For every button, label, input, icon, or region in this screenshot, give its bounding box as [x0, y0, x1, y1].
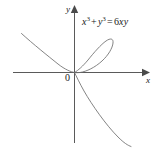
curve-loop — [75, 39, 114, 73]
plot-canvas — [0, 0, 160, 152]
equation-equals-sign: = — [106, 16, 114, 27]
y-axis-label: y — [66, 5, 70, 14]
equation-plus-sign: + — [90, 16, 98, 27]
curve-upper-left-branch — [22, 34, 75, 73]
x-axis-label: x — [146, 76, 150, 85]
origin-label: 0 — [65, 73, 70, 83]
equation-annotation: x3+y3=6xy — [82, 17, 128, 27]
curve-lower-right-branch — [75, 73, 132, 147]
equation-xy-product: xy — [119, 16, 128, 27]
folium-of-descartes-figure: y x 0 x3+y3=6xy — [0, 0, 160, 152]
y-axis-arrow-icon — [71, 5, 78, 13]
